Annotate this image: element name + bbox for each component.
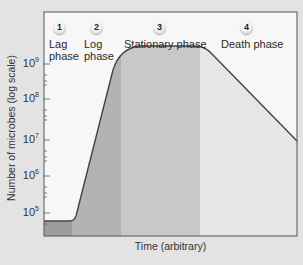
phase-3-badge: 3 bbox=[153, 21, 166, 34]
phase-3-label: Stationary phase bbox=[124, 38, 207, 50]
phase-2-label: Log phase bbox=[84, 38, 114, 62]
phase-1-badge: 1 bbox=[53, 21, 66, 34]
phase-1-label: Lag phase bbox=[49, 38, 79, 62]
y-axis-label: Number of microbes (log scale) bbox=[5, 28, 17, 228]
x-axis-label: Time (arbitrary) bbox=[44, 240, 297, 252]
phase-2-badge: 2 bbox=[90, 21, 103, 34]
phase-4-label: Death phase bbox=[221, 38, 283, 50]
phase-1-label-line1: Lag bbox=[49, 38, 79, 50]
phase-2-label-line1: Log bbox=[84, 38, 114, 50]
phase-4-badge: 4 bbox=[240, 21, 253, 34]
phase-2-label-line2: phase bbox=[84, 50, 114, 62]
phase-1-label-line2: phase bbox=[49, 50, 79, 62]
